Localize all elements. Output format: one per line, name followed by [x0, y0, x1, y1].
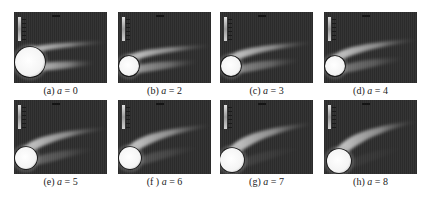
caption-variable: a	[263, 85, 268, 96]
colorbar-legend	[18, 17, 21, 41]
colorbar-legend	[18, 105, 21, 129]
flow-field-panel-c	[220, 12, 313, 83]
caption-label: (d)	[353, 85, 365, 96]
flow-field-panel-g	[220, 100, 313, 174]
panel-header-text	[52, 15, 60, 17]
cylinder-shape	[325, 56, 345, 76]
panel-header-text	[362, 15, 370, 17]
panel-caption-a: (a) a = 0	[14, 85, 107, 97]
cylinder-shape	[221, 56, 241, 76]
caption-value: 8	[383, 176, 388, 187]
flow-field-panel-a	[14, 12, 107, 83]
caption-label: (g)	[249, 176, 261, 187]
panel-caption-e: (e) a = 5	[14, 176, 107, 188]
panel-caption-g: (g) a = 7	[220, 176, 313, 188]
flow-field-panel-e	[14, 100, 107, 174]
cylinder-shape	[220, 148, 244, 172]
panel-caption-d: (d) a = 4	[324, 85, 417, 97]
colorbar-legend	[224, 105, 227, 129]
caption-equals: =	[169, 176, 175, 187]
caption-value: 0	[73, 85, 78, 96]
panel-caption-h: (h) a = 8	[324, 176, 417, 188]
caption-variable: a	[161, 85, 166, 96]
panel-header-text	[52, 103, 60, 105]
cylinder-shape	[119, 56, 139, 76]
colorbar-legend	[328, 105, 331, 129]
cylinder-shape	[15, 47, 45, 77]
flow-field-panel-f	[118, 100, 211, 174]
panel-header-text	[362, 103, 370, 105]
vorticity-plot	[324, 12, 417, 83]
caption-value: 2	[177, 85, 182, 96]
panel-header-text	[156, 103, 164, 105]
panel-caption-f: (f ) a = 6	[118, 176, 211, 188]
caption-equals: =	[64, 176, 70, 187]
caption-variable: a	[162, 176, 167, 187]
caption-equals: =	[270, 85, 276, 96]
panel-header-text	[258, 103, 266, 105]
colorbar-legend	[122, 17, 125, 41]
panel-caption-c: (c) a = 3	[220, 85, 313, 97]
colorbar-legend	[122, 105, 125, 129]
caption-label: (h)	[353, 176, 365, 187]
vorticity-plot	[118, 12, 211, 83]
caption-value: 6	[177, 176, 182, 187]
vorticity-plot	[14, 12, 107, 83]
panel-header-text	[258, 15, 266, 17]
caption-label: (e)	[43, 176, 54, 187]
vorticity-plot	[220, 12, 313, 83]
caption-label: (c)	[249, 85, 260, 96]
caption-variable: a	[263, 176, 268, 187]
caption-equals: =	[169, 85, 175, 96]
caption-value: 5	[73, 176, 78, 187]
cylinder-shape	[327, 149, 351, 173]
caption-value: 4	[383, 85, 388, 96]
caption-variable: a	[57, 176, 62, 187]
caption-label: (b)	[147, 85, 159, 96]
caption-variable: a	[57, 85, 62, 96]
caption-variable: a	[367, 176, 372, 187]
flow-field-panel-b	[118, 12, 211, 83]
vorticity-plot	[220, 100, 313, 174]
caption-equals: =	[375, 176, 381, 187]
cylinder-shape	[15, 147, 37, 169]
caption-variable: a	[367, 85, 372, 96]
cylinder-shape	[119, 147, 141, 169]
panel-header-text	[156, 15, 164, 17]
vorticity-plot	[118, 100, 211, 174]
colorbar-legend	[328, 17, 331, 41]
caption-equals: =	[271, 176, 277, 187]
vorticity-plot	[14, 100, 107, 174]
caption-value: 7	[279, 176, 284, 187]
colorbar-legend	[224, 17, 227, 41]
caption-value: 3	[279, 85, 284, 96]
caption-equals: =	[375, 85, 381, 96]
flow-field-panel-h	[324, 100, 417, 174]
caption-label: (a)	[43, 85, 54, 96]
panel-caption-b: (b) a = 2	[118, 85, 211, 97]
caption-equals: =	[64, 85, 70, 96]
vorticity-plot	[324, 100, 417, 174]
flow-field-panel-d	[324, 12, 417, 83]
caption-label: (f )	[147, 176, 160, 187]
